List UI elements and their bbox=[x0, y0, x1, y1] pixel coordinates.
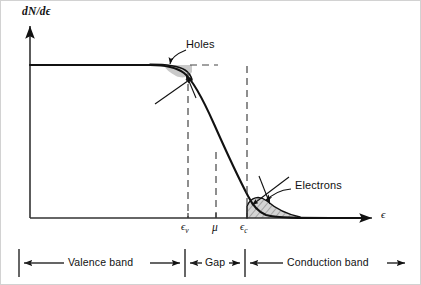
figure-canvas: dN/dϵ ϵ ϵv μ ϵc Holes Electrons Valence … bbox=[0, 0, 421, 285]
band-label-valence: Valence band bbox=[68, 257, 133, 268]
tick-label-conduction-edge: ϵc bbox=[240, 222, 248, 235]
density-of-states-curve bbox=[30, 65, 362, 218]
tick-label-chemical-potential: μ bbox=[212, 222, 218, 234]
y-axis-label: dN/dϵ bbox=[22, 6, 51, 18]
band-label-conduction: Conduction band bbox=[287, 257, 369, 268]
callout-holes: Holes bbox=[186, 39, 215, 50]
electrons-inner-leader-line bbox=[252, 177, 289, 205]
tick-label-valence-edge-sub: v bbox=[185, 226, 188, 235]
band-label-gap: Gap bbox=[205, 257, 225, 268]
electrons-leader-line bbox=[266, 189, 291, 201]
callout-electrons: Electrons bbox=[295, 180, 342, 191]
tick-label-conduction-edge-sub: c bbox=[244, 226, 247, 235]
x-axis-label: ϵ bbox=[381, 209, 385, 220]
holes-leader-line bbox=[170, 50, 186, 64]
tick-label-valence-edge: ϵv bbox=[181, 222, 189, 235]
holes-inner-leader-line bbox=[155, 78, 192, 104]
